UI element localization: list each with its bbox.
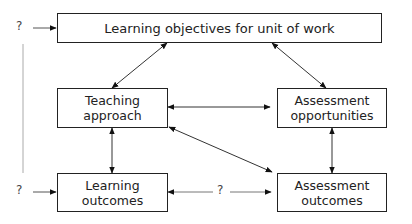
node-learning-objectives: Learning objectives for unit of work: [57, 13, 382, 43]
arrow-objectives-assess-opp: [272, 43, 326, 88]
node-label-line2: outcomes: [295, 193, 370, 208]
arrow-teaching-assess-out: [169, 127, 272, 172]
node-label-line1: Learning: [82, 178, 143, 193]
arrow-objectives-teaching: [112, 43, 167, 88]
node-assessment-opportunities: Assessment opportunities: [277, 88, 387, 128]
node-label-line2: approach: [83, 108, 142, 123]
unknown-input-bottom: ?: [16, 183, 22, 197]
node-teaching-approach: Teaching approach: [57, 88, 168, 128]
node-assessment-outcomes: Assessment outcomes: [277, 173, 387, 212]
node-label-line1: Teaching: [83, 93, 142, 108]
node-label-line2: outcomes: [82, 193, 143, 208]
unknown-input-top: ?: [16, 19, 22, 33]
node-label-line1: Assessment: [290, 93, 373, 108]
node-label: Learning objectives for unit of work: [104, 21, 334, 36]
node-label-line2: opportunities: [290, 108, 373, 123]
unknown-link-label: ?: [217, 183, 223, 197]
node-learning-outcomes: Learning outcomes: [57, 173, 168, 212]
node-label-line1: Assessment: [295, 178, 370, 193]
